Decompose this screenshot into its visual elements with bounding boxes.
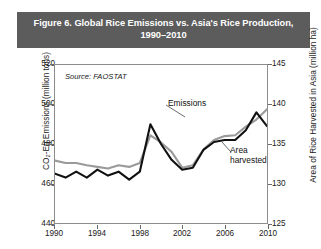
source-note: Source: FAOSTAT [65, 72, 127, 81]
y-tick-right-135: 135 [272, 139, 312, 148]
y-tick-mark-right-130 [268, 184, 272, 185]
figure-title-line-1: Figure 6. Global Rice Emissions vs. Asia… [34, 18, 294, 28]
annotation-leaders [55, 65, 267, 223]
figure-title-line-2: 1990–2010 [140, 30, 186, 40]
series-label-area-harvested: Area harvested [230, 145, 267, 165]
y-tick-left-480: 480 [15, 139, 55, 148]
y-tick-left-440: 440 [15, 219, 55, 228]
y-tick-left-460: 460 [15, 179, 55, 188]
figure-header: Figure 6. Global Rice Emissions vs. Asia… [17, 12, 310, 48]
y-tick-mark-right-140 [268, 104, 272, 105]
series-label-emissions: Emissions [168, 98, 206, 108]
y-tick-mark-right-145 [268, 64, 272, 65]
y-tick-right-140: 140 [272, 99, 312, 108]
x-tick-2010: 2010 [248, 229, 288, 238]
x-tick-1994: 1994 [77, 229, 117, 238]
x-tick-1990: 1990 [34, 229, 74, 238]
plot-area [54, 64, 268, 224]
y-tick-left-500: 500 [15, 99, 55, 108]
y-tick-right-130: 130 [272, 179, 312, 188]
series-label-area-line-2: harvested [230, 155, 267, 165]
x-tick-1998: 1998 [120, 229, 160, 238]
y-tick-mark-right-135 [268, 144, 272, 145]
chart-body: CO₂-Eq Emissions (million tons) Area of … [17, 48, 310, 238]
x-tick-2006: 2006 [205, 229, 245, 238]
y-tick-right-125: 125 [272, 219, 312, 228]
figure-container: Figure 6. Global Rice Emissions vs. Asia… [17, 12, 310, 238]
series-label-area-line-1: Area [230, 145, 248, 155]
x-tick-2002: 2002 [162, 229, 202, 238]
figure-title: Figure 6. Global Rice Emissions vs. Asia… [34, 18, 294, 41]
y-tick-left-520: 520 [15, 59, 55, 68]
y-tick-right-145: 145 [272, 59, 312, 68]
